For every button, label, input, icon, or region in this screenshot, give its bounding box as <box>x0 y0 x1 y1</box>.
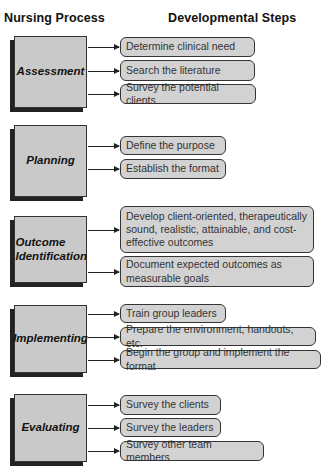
arrow-icon <box>88 47 119 48</box>
stage-box-implementing: Implementing <box>14 305 87 373</box>
header-developmental-steps: Developmental Steps <box>168 11 296 25</box>
arrow-icon <box>88 146 119 147</box>
step-box: Search the literature <box>120 60 255 81</box>
step-box: Survey other team members <box>120 441 264 461</box>
step-box: Determine clinical need <box>120 37 255 57</box>
arrow-icon <box>88 71 119 72</box>
step-box: Establish the format <box>120 159 226 179</box>
step-box: Define the purpose <box>120 136 226 155</box>
arrow-icon <box>88 451 119 452</box>
stage-label: Outcome Identification <box>16 236 86 264</box>
step-box: Develop client-oriented, therapeutically… <box>120 206 314 253</box>
stage-label: Assessment <box>17 65 85 79</box>
step-box: Survey the leaders <box>120 418 221 437</box>
arrow-icon <box>88 94 119 95</box>
arrow-icon <box>88 169 119 170</box>
arrow-icon <box>88 428 119 429</box>
step-box: Survey the potential clients <box>120 84 256 104</box>
arrow-icon <box>88 337 119 338</box>
step-box: Prepare the environment, handouts, etc. <box>120 327 316 346</box>
arrow-icon <box>88 405 119 406</box>
stage-box-assessment: Assessment <box>14 36 87 108</box>
arrow-icon <box>88 360 119 361</box>
step-box: Document expected outcomes as measurable… <box>120 256 314 287</box>
stage-label: Planning <box>26 154 75 168</box>
arrow-icon <box>88 314 119 315</box>
step-box: Survey the clients <box>120 395 221 415</box>
step-box: Begin the group and implement the format <box>120 350 321 369</box>
stage-label: Implementing <box>13 332 88 346</box>
step-box: Train group leaders <box>120 304 226 323</box>
stage-box-outcome-identification: Outcome Identification <box>14 216 87 283</box>
header-nursing-process: Nursing Process <box>4 11 105 25</box>
stage-box-planning: Planning <box>14 125 87 197</box>
stage-label: Evaluating <box>21 421 79 435</box>
arrow-icon <box>88 230 119 231</box>
stage-box-evaluating: Evaluating <box>14 394 87 462</box>
arrow-icon <box>88 272 119 273</box>
